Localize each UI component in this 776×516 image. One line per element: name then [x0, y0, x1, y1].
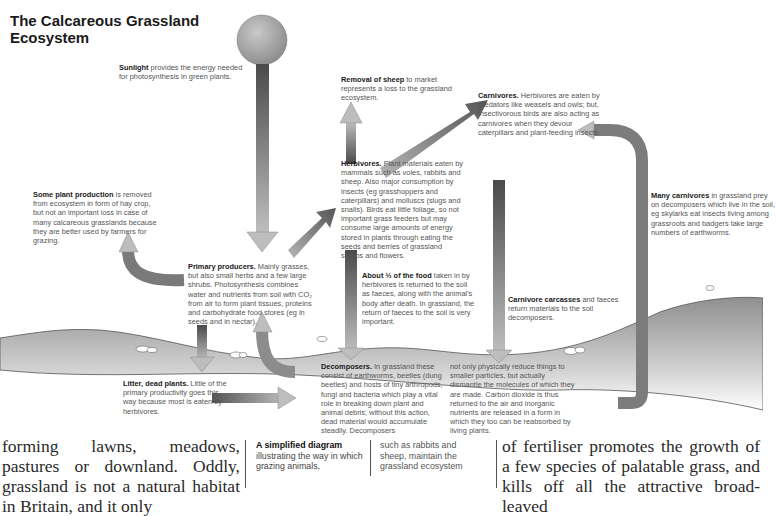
- column-rule: [370, 440, 371, 476]
- label-herbivores: Herbivores. Plant materials eaten by mam…: [341, 159, 466, 260]
- label-primary-producers: Primary producers. Mainly grasses, but a…: [188, 262, 313, 326]
- diagram-title: The Calcareous Grassland Ecosystem: [10, 12, 250, 46]
- arrow-producers-to-herbivores: [288, 208, 336, 258]
- body-text-right: of fertiliser promotes the growth of a f…: [502, 436, 760, 516]
- arrow-herbivores-to-decomposers: [338, 250, 364, 360]
- label-carnivore-carcasses: Carnivore carcasses and faeces return ma…: [508, 295, 626, 323]
- label-many-carnivores: Many carnivores in grassland prey on dec…: [651, 191, 776, 237]
- label-decomposers: Decomposers. In grassland these consist …: [321, 362, 443, 436]
- arrow-removal-of-sheep: [340, 102, 362, 164]
- column-rule: [245, 440, 246, 488]
- arrow-carnivores-to-decomposers: [486, 180, 512, 363]
- label-plant-production-removed: Some plant production is removed from ec…: [33, 190, 158, 245]
- label-sunlight: Sunlight provides the energy needed for …: [119, 63, 244, 81]
- label-decomposers-continued: not only physically reduce things to sma…: [450, 362, 576, 436]
- label-half-food: About ½ of the food taken in by herbivor…: [362, 271, 477, 326]
- body-text-left: forming lawns, meadows, pastures or down…: [2, 436, 240, 516]
- column-rule: [496, 440, 497, 488]
- caption-b: such as rabbits and sheep, maintain the …: [380, 440, 480, 472]
- label-removal-of-sheep: Removal of sheep to market represents a …: [341, 75, 466, 103]
- caption-a: A simplified diagram illustrating the wa…: [256, 440, 364, 472]
- arrow-sunlight-to-producers: [247, 64, 278, 252]
- label-litter-dead-plants: Litter, dead plants. Little of the prima…: [123, 379, 231, 416]
- label-carnivores: Carnivores. Herbivores are eaten by pred…: [478, 91, 603, 137]
